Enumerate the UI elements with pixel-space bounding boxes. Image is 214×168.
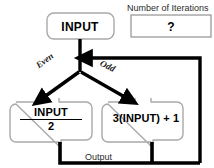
input-node-label: INPUT [52, 21, 108, 33]
iterations-value: ? [133, 20, 209, 34]
edge-even-branch [40, 72, 79, 100]
even-node-numerator: INPUT [20, 107, 82, 120]
iterations-caption: Number of Iterations [127, 3, 209, 13]
collatz-flowchart: Number of Iterations ? INPUT INPUT 2 3(I… [0, 0, 214, 168]
edge-odd-branch [81, 72, 130, 100]
odd-node-label: 3(INPUT) + 1 [108, 113, 184, 124]
edge-even-output [60, 142, 200, 163]
even-node-denominator: 2 [20, 120, 82, 132]
even-node-label: INPUT 2 [20, 107, 82, 132]
output-edge-label: Output [85, 152, 112, 162]
